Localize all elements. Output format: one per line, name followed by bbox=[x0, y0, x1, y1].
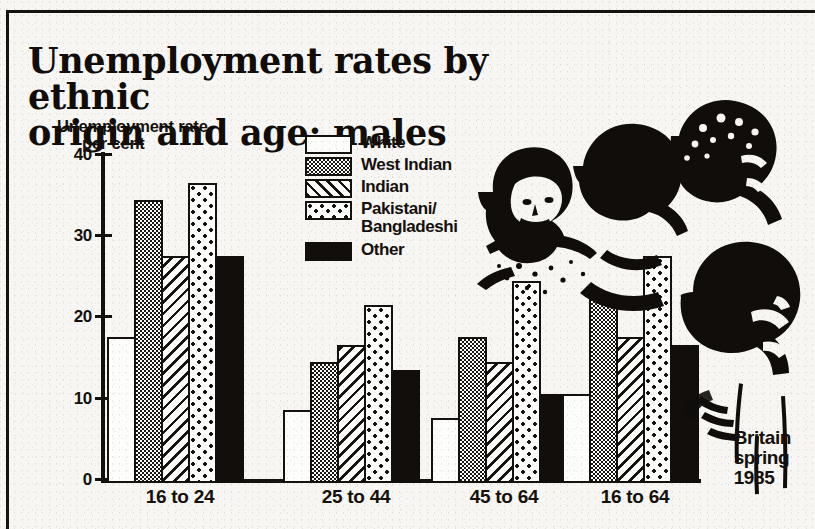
bar-group-16-to-24 bbox=[107, 183, 242, 483]
legend-swatch-indian bbox=[305, 179, 352, 198]
bar-16-to-64-pakistani-bangladeshi[interactable] bbox=[643, 256, 672, 483]
legend-item-west-indian[interactable]: West Indian bbox=[305, 156, 458, 176]
legend-swatch-pakistani-bangladeshi bbox=[305, 201, 352, 220]
bar-16-to-64-white[interactable] bbox=[562, 394, 591, 483]
y-axis-title-line-1: Unemployment rate bbox=[57, 117, 208, 135]
headline-line-1: Unemployment rates by ethnic bbox=[28, 40, 488, 117]
bar-45-to-64-west-indian[interactable] bbox=[458, 337, 487, 483]
bar-45-to-64-indian[interactable] bbox=[485, 362, 514, 484]
bar-16-to-24-indian[interactable] bbox=[161, 256, 190, 483]
y-tick-40 bbox=[95, 153, 112, 156]
y-axis-title-line-2: per cent bbox=[82, 135, 208, 152]
bar-group-16-to-64 bbox=[562, 256, 697, 483]
legend-swatch-other bbox=[305, 242, 352, 261]
legend-label-pakistani-bangladeshi: Pakistani/ Bangladeshi bbox=[361, 200, 458, 235]
bar-16-to-24-west-indian[interactable] bbox=[134, 200, 163, 484]
source-caption: Britain spring 1985 bbox=[734, 428, 791, 488]
caption-line-2: spring bbox=[734, 448, 791, 468]
bar-25-to-44-pakistani-bangladeshi[interactable] bbox=[364, 305, 393, 483]
legend-item-pakistani-bangladeshi[interactable]: Pakistani/ Bangladeshi bbox=[305, 200, 458, 235]
legend-item-white[interactable]: White bbox=[305, 134, 458, 154]
bar-16-to-64-west-indian[interactable] bbox=[589, 297, 618, 483]
caption-line-1: Britain bbox=[734, 428, 791, 448]
legend-label-other: Other bbox=[361, 241, 404, 259]
bar-16-to-24-white[interactable] bbox=[107, 337, 136, 483]
legend-swatch-white bbox=[305, 135, 352, 154]
caption-line-3: 1985 bbox=[734, 468, 791, 488]
x-label-16-to-64: 16 to 64 bbox=[562, 486, 708, 508]
bar-25-to-44-white[interactable] bbox=[283, 410, 312, 483]
y-tick-label-20: 20 bbox=[50, 307, 92, 327]
bar-group-45-to-64 bbox=[431, 281, 566, 484]
legend-swatch-west-indian bbox=[305, 157, 352, 176]
legend-item-other[interactable]: Other bbox=[305, 241, 458, 261]
bar-16-to-64-other[interactable] bbox=[670, 345, 699, 483]
x-label-16-to-24: 16 to 24 bbox=[107, 486, 253, 508]
bar-25-to-44-indian[interactable] bbox=[337, 345, 366, 483]
legend-label-white: White bbox=[361, 134, 405, 152]
y-tick-label-10: 10 bbox=[50, 389, 92, 409]
y-tick-label-30: 30 bbox=[50, 226, 92, 246]
chart-legend: White West Indian Indian Pakistani/ Bang… bbox=[305, 134, 458, 263]
border-rule-top bbox=[6, 10, 815, 13]
y-axis-title: Unemployment rate per cent bbox=[57, 118, 208, 152]
bar-16-to-64-indian[interactable] bbox=[616, 337, 645, 483]
bar-group-25-to-44 bbox=[283, 305, 418, 483]
x-label-25-to-44: 25 to 44 bbox=[283, 486, 429, 508]
border-rule-left bbox=[6, 10, 9, 529]
legend-item-indian[interactable]: Indian bbox=[305, 178, 458, 198]
bar-16-to-24-other[interactable] bbox=[215, 256, 244, 483]
x-label-45-to-64: 45 to 64 bbox=[431, 486, 577, 508]
infographic-page: Unemployment rates by ethnic origin and … bbox=[0, 0, 815, 529]
y-tick-label-0: 0 bbox=[50, 470, 92, 490]
legend-label-west-indian: West Indian bbox=[361, 156, 452, 174]
bar-25-to-44-other[interactable] bbox=[391, 370, 420, 483]
bar-45-to-64-white[interactable] bbox=[431, 418, 460, 483]
bar-45-to-64-pakistani-bangladeshi[interactable] bbox=[512, 281, 541, 484]
legend-label-indian: Indian bbox=[361, 178, 409, 196]
bar-16-to-24-pakistani-bangladeshi[interactable] bbox=[188, 183, 217, 483]
bar-25-to-44-west-indian[interactable] bbox=[310, 362, 339, 484]
